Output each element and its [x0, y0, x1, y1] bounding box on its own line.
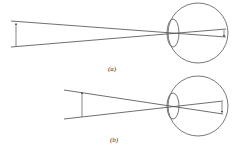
ray-top-a [11, 21, 226, 37]
panel-label-b: (b) [110, 136, 119, 144]
panel-label-a: (a) [108, 65, 117, 73]
panel-a: (a) [11, 3, 228, 73]
visual-angle-diagram: (a) (b) [0, 0, 236, 154]
ray-bottom-a [11, 29, 226, 47]
panel-b: (b) [64, 76, 228, 144]
